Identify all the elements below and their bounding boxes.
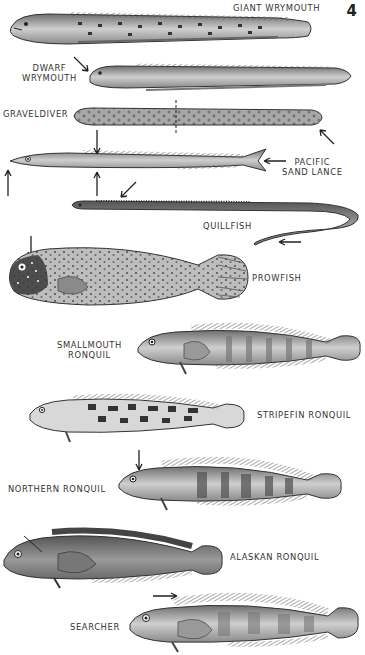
label-smallmouth-ronquil-line2: RONQUIL	[57, 350, 122, 360]
label-pacific-sand-lance-line1: PACIFIC	[282, 157, 343, 167]
searcher-illustration	[128, 588, 360, 654]
label-quillfish: QUILLFISH	[203, 221, 252, 231]
label-pacific-sand-lance: PACIFIC SAND LANCE	[282, 157, 343, 177]
plate-number: 4	[347, 2, 357, 20]
northern-ronquil-illustration	[117, 452, 345, 512]
stripefin-ronquil-illustration	[28, 392, 246, 442]
pacific-sand-lance-illustration	[8, 145, 270, 175]
label-dwarf-wrymouth: DWARF WRYMOUTH	[22, 63, 77, 83]
arrow-icon	[4, 168, 12, 196]
dwarf-wrymouth-illustration	[86, 60, 354, 94]
smallmouth-ronquil-illustration	[136, 318, 362, 380]
label-dwarf-wrymouth-line1: DWARF	[22, 63, 77, 73]
label-smallmouth-ronquil: SMALLMOUTH RONQUIL	[57, 340, 122, 360]
giant-wrymouth-illustration	[8, 8, 313, 48]
label-northern-ronquil: NORTHERN RONQUIL	[8, 484, 106, 494]
label-graveldiver: GRAVELDIVER	[3, 109, 68, 119]
arrow-icon	[318, 128, 336, 146]
label-dwarf-wrymouth-line2: WRYMOUTH	[22, 73, 77, 83]
graveldiver-illustration	[72, 106, 324, 128]
arrow-icon	[93, 130, 101, 156]
arrow-icon	[93, 170, 101, 196]
label-pacific-sand-lance-line2: SAND LANCE	[282, 167, 343, 177]
prowfish-illustration	[8, 243, 248, 311]
arrow-icon	[277, 238, 301, 246]
label-prowfish: PROWFISH	[252, 273, 301, 283]
alaskan-ronquil-illustration	[2, 524, 224, 590]
label-smallmouth-ronquil-line1: SMALLMOUTH	[57, 340, 122, 350]
label-stripefin-ronquil: STRIPEFIN RONQUIL	[257, 410, 351, 420]
label-alaskan-ronquil: ALASKAN RONQUIL	[230, 552, 319, 562]
label-searcher: SEARCHER	[70, 622, 120, 632]
